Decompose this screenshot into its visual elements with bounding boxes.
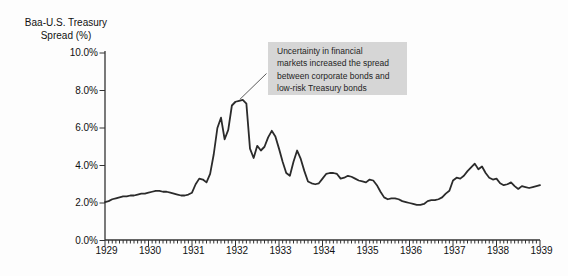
annotation-line3: between corporate bonds and: [277, 70, 403, 82]
y-axis-label: 6.0%: [54, 122, 98, 134]
y-axis-label: 10.0%: [54, 47, 98, 59]
x-axis-label: 1934: [307, 245, 341, 257]
x-axis-label: 1937: [438, 245, 472, 257]
annotation-line4: low-risk Treasury bonds: [277, 82, 403, 94]
x-axis-label: 1929: [90, 245, 124, 257]
x-axis-label: 1936: [394, 245, 428, 257]
y-axis-label: 4.0%: [54, 160, 98, 172]
annotation-line1: Uncertainty in financial: [277, 45, 403, 57]
y-axis-label: 8.0%: [54, 85, 98, 97]
x-axis-label: 1930: [133, 245, 167, 257]
annotation-line2: markets increased the spread: [277, 57, 403, 69]
x-axis-label: 1933: [264, 245, 298, 257]
spread-line: [105, 100, 540, 205]
chart-canvas: Baa-U.S. Treasury Spread (%) 10.0%8.0%6.…: [0, 0, 568, 276]
x-axis-label: 1931: [177, 245, 211, 257]
y-axis-label: 2.0%: [54, 197, 98, 209]
callout-line: [240, 74, 267, 100]
x-axis-label: 1935: [351, 245, 385, 257]
x-axis-label: 1939: [525, 245, 559, 257]
x-axis-label: 1932: [220, 245, 254, 257]
x-axis-label: 1938: [481, 245, 515, 257]
annotation-box: Uncertainty in financial markets increas…: [268, 42, 407, 95]
